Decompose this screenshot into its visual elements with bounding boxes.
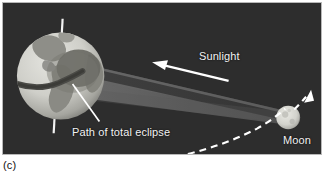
eclipse-figure: Sunlight Path of total eclipse Moon (c) <box>0 0 326 158</box>
label-moon: Moon <box>283 134 311 146</box>
moon-crater-2 <box>290 119 295 124</box>
label-path-of-total-eclipse: Path of total eclipse <box>72 126 170 138</box>
figure-caption: (c) <box>3 159 16 171</box>
moon-crater-3 <box>287 109 291 113</box>
figure-frame: Sunlight Path of total eclipse Moon <box>2 2 322 155</box>
label-sunlight: Sunlight <box>199 50 240 62</box>
moon-crater-1 <box>282 111 288 117</box>
